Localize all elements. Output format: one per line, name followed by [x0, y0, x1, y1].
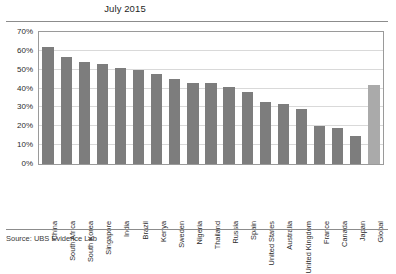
bar-singapore: [97, 64, 108, 164]
bar-canada: [332, 128, 343, 164]
x-axis-tick-label: Canada: [341, 221, 349, 247]
x-axis-tick-label: Spain: [250, 221, 258, 240]
bar-russia: [223, 87, 234, 164]
bar-united-states: [260, 102, 271, 164]
x-axis-tick-label: Japan: [359, 221, 367, 241]
bar-nigeria: [187, 83, 198, 164]
y-axis-tick-label: 50%: [17, 65, 33, 74]
bar-south-korea: [79, 62, 90, 164]
x-axis-tick-label: Australia: [286, 221, 294, 250]
x-axis-tick-label: United States: [268, 221, 276, 265]
source-note: Source: UBS Evidence Lab: [6, 234, 97, 243]
x-axis-tick-label: Kenya: [160, 221, 168, 242]
bottom-divider: [6, 229, 388, 230]
y-axis-tick-label: 10%: [17, 140, 33, 149]
bar-india: [115, 68, 126, 164]
y-axis: 70%60%50%40%30%20%10%0%: [0, 0, 38, 250]
bar-global: [368, 85, 379, 164]
y-axis-tick-label: 30%: [17, 102, 33, 111]
bar-united-kingdom: [296, 109, 307, 164]
bar-south-africa: [61, 57, 72, 164]
x-axis: ChinaSouth AfricaSouth KoreaSingaporeInd…: [39, 167, 383, 223]
x-axis-tick-label: Russia: [232, 221, 240, 244]
y-axis-tick-label: 20%: [17, 121, 33, 130]
bar-series: [39, 32, 383, 164]
y-axis-tick-label: 40%: [17, 84, 33, 93]
bar-brazil: [133, 70, 144, 164]
x-axis-tick-label: Thailand: [214, 221, 222, 249]
y-axis-tick-label: 60%: [17, 46, 33, 55]
bar-kenya: [151, 74, 162, 165]
y-axis-tick-label: 0%: [21, 159, 33, 168]
x-axis-tick-label: Global: [377, 221, 385, 242]
bar-france: [314, 126, 325, 164]
bar-thailand: [205, 83, 216, 164]
x-axis-tick-label: France: [323, 221, 331, 244]
bar-australia: [278, 104, 289, 164]
x-axis-tick-label: Nigeria: [196, 221, 204, 244]
bar-sweden: [169, 79, 180, 164]
x-axis-tick-label: Brazil: [142, 221, 150, 239]
x-axis-tick-label: Sweden: [178, 221, 186, 248]
bar-japan: [350, 136, 361, 164]
bar-china: [42, 47, 53, 164]
y-axis-tick-label: 70%: [17, 27, 33, 36]
x-axis-tick-label: Singapore: [105, 221, 113, 255]
bar-spain: [242, 92, 253, 164]
